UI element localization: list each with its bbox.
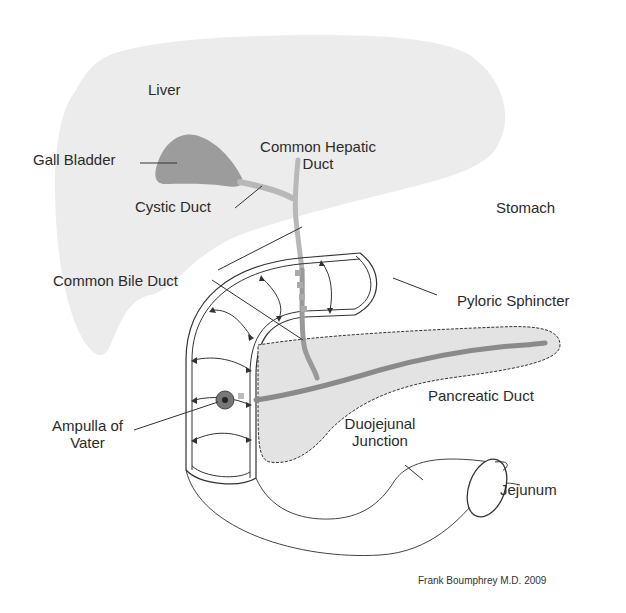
biliary-diagram: Liver Gall Bladder Common Hepatic Duct C… bbox=[0, 0, 626, 613]
pyloric-sphincter-label: Pyloric Sphincter bbox=[457, 292, 570, 309]
stomach-label: Stomach bbox=[496, 199, 555, 216]
cystic-duct-label: Cystic Duct bbox=[135, 198, 211, 215]
common-hepatic-duct-label: Common Hepatic Duct bbox=[258, 138, 378, 172]
author-credit: Frank Boumphrey M.D. 2009 bbox=[418, 575, 546, 586]
common-hepatic-duct-label-line2: Duct bbox=[258, 155, 378, 172]
duodenum-inner-outline bbox=[256, 459, 490, 519]
gall-bladder-label: Gall Bladder bbox=[33, 151, 116, 168]
ampulla-label-line2: Vater bbox=[40, 434, 135, 451]
liver-label: Liver bbox=[148, 81, 181, 98]
duojejunal-junction-label: Duojejunal Junction bbox=[330, 415, 430, 449]
jejunum-label: Jejunum bbox=[500, 481, 557, 498]
ampulla-label-line1: Ampulla of bbox=[40, 417, 135, 434]
duojejunal-label-line1: Duojejunal bbox=[330, 415, 430, 432]
common-bile-duct-label: Common Bile Duct bbox=[53, 272, 178, 289]
duojejunal-label-line2: Junction bbox=[330, 432, 430, 449]
ampulla-of-vater-label: Ampulla of Vater bbox=[40, 417, 135, 451]
pancreatic-duct-label: Pancreatic Duct bbox=[428, 387, 534, 404]
common-hepatic-duct-label-line1: Common Hepatic bbox=[258, 138, 378, 155]
